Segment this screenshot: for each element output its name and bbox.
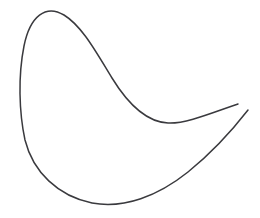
canvas-background <box>0 0 260 218</box>
drawing-canvas <box>0 0 260 218</box>
crescent-line-drawing <box>0 0 260 218</box>
